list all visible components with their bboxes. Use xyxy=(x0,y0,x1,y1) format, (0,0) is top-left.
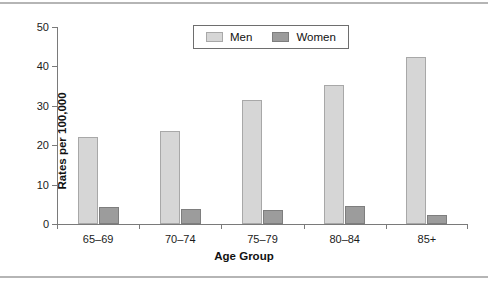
y-tick xyxy=(52,185,57,186)
y-tick-label: 20 xyxy=(37,139,49,151)
legend-swatch-icon-women xyxy=(272,32,289,42)
bar-women-70–74 xyxy=(181,209,201,224)
x-tick-label: 65–69 xyxy=(83,233,114,245)
y-tick-label: 0 xyxy=(43,218,49,230)
chart-legend: MenWomen xyxy=(193,25,349,49)
figure-bottom-rule xyxy=(0,276,488,278)
bar-women-85+ xyxy=(427,215,447,224)
y-tick-label: 30 xyxy=(37,100,49,112)
legend-entry-women[interactable]: Women xyxy=(272,31,335,43)
legend-label: Women xyxy=(296,31,335,43)
x-tick xyxy=(467,224,468,229)
bar-men-85+ xyxy=(406,57,426,224)
x-tick xyxy=(304,224,305,229)
y-tick xyxy=(52,66,57,67)
y-tick xyxy=(52,106,57,107)
plot-area: 01020304050 65–6970–7475–7980–8485+ xyxy=(57,27,468,224)
x-axis-line xyxy=(57,224,468,225)
x-tick-label: 85+ xyxy=(418,233,437,245)
bar-men-75–79 xyxy=(242,100,262,224)
legend-label: Men xyxy=(230,31,252,43)
y-tick xyxy=(52,145,57,146)
chart-figure: Rates per 100,000 Age Group 01020304050 … xyxy=(0,0,488,281)
x-tick-label: 80–84 xyxy=(329,233,360,245)
x-tick xyxy=(139,224,140,229)
y-tick-label: 50 xyxy=(37,21,49,33)
bar-women-80–84 xyxy=(345,206,365,224)
bar-men-80–84 xyxy=(324,85,344,224)
x-tick xyxy=(57,224,58,229)
x-tick-label: 75–79 xyxy=(247,233,278,245)
legend-swatch-icon-men xyxy=(206,32,223,42)
y-axis-line xyxy=(57,27,58,225)
figure-top-rule xyxy=(0,2,488,4)
x-tick xyxy=(221,224,222,229)
y-tick-label: 10 xyxy=(37,179,49,191)
y-tick xyxy=(52,27,57,28)
legend-entry-men[interactable]: Men xyxy=(206,31,252,43)
bar-men-70–74 xyxy=(160,131,180,224)
bar-men-65–69 xyxy=(78,137,98,224)
y-tick-label: 40 xyxy=(37,60,49,72)
bar-women-65–69 xyxy=(99,207,119,224)
bar-women-75–79 xyxy=(263,210,283,224)
x-axis-title: Age Group xyxy=(0,250,488,262)
x-tick xyxy=(386,224,387,229)
x-tick-label: 70–74 xyxy=(165,233,196,245)
